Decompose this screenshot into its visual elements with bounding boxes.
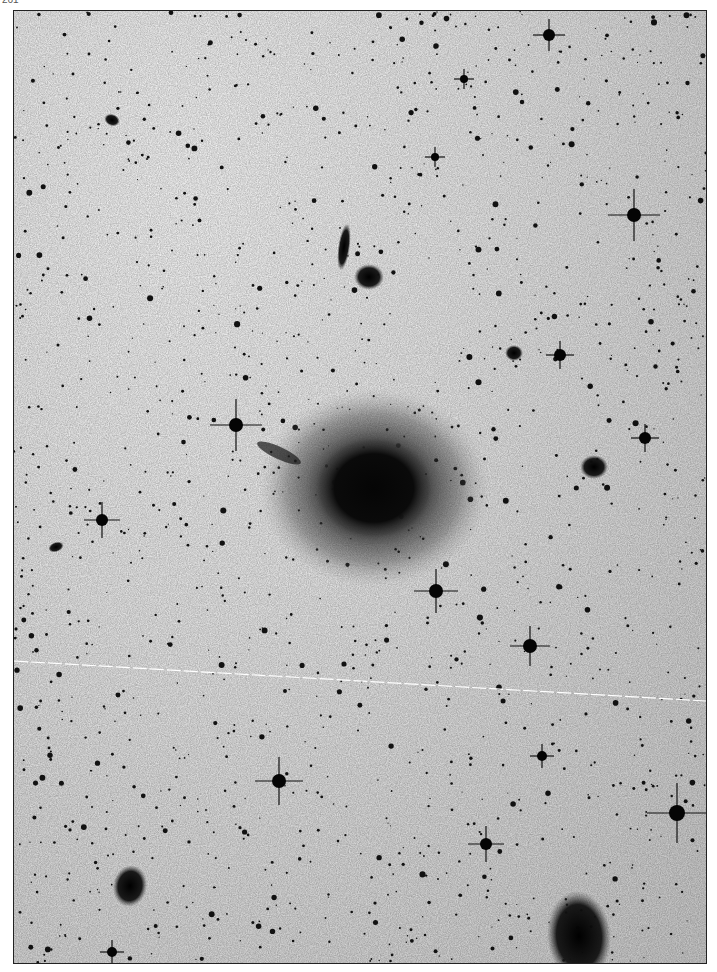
- star-field: [14, 11, 706, 963]
- page-number-label: 261: [2, 0, 19, 5]
- astronomical-plate: [13, 10, 707, 964]
